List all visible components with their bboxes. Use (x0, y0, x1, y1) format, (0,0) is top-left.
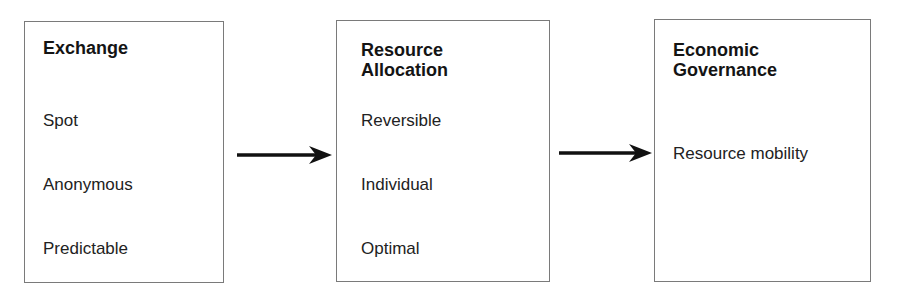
box-resource-allocation-title: Resource Allocation (361, 40, 448, 80)
box-exchange-item-anonymous: Anonymous (43, 175, 133, 195)
box-exchange-title: Exchange (43, 38, 128, 58)
box-economic-governance-item-resource-mobility: Resource mobility (673, 144, 808, 164)
box-resource-allocation-item-optimal: Optimal (361, 239, 420, 259)
box-exchange-item-spot: Spot (43, 111, 78, 131)
box-resource-allocation-item-individual: Individual (361, 175, 433, 195)
box-exchange-item-predictable: Predictable (43, 239, 128, 259)
arrow-right-icon (236, 145, 334, 165)
box-economic-governance-title: Economic Governance (673, 40, 777, 80)
arrow-right-icon (558, 143, 654, 163)
box-resource-allocation-item-reversible: Reversible (361, 111, 441, 131)
